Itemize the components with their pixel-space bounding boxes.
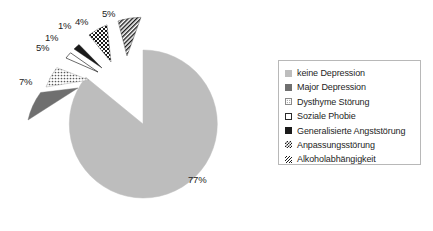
- checkerboard-swatch-icon: [285, 141, 292, 148]
- legend-item-alkoholabhaengigkeit: Alkoholabhängigkeit: [285, 152, 420, 166]
- pie-slice-anpassungsstoerung: [89, 25, 111, 62]
- legend-item-dysthyme-stoerung: Dysthyme Störung: [285, 95, 420, 109]
- pie-chart-area: 77% 7% 5% 1% 1% 4% 5%: [0, 0, 270, 231]
- legend-label: Generalisierte Angststörung: [297, 126, 405, 136]
- legend-label: keine Depression: [297, 68, 365, 78]
- slice-label-anpassungsstoerung: 4%: [75, 16, 88, 27]
- legend-item-generalisierte-angststoerung: Generalisierte Angststörung: [285, 124, 420, 138]
- slice-label-major-depression: 7%: [19, 76, 32, 87]
- pie-slice-generalisierte-angststoerung: [74, 45, 102, 69]
- pie-slice-alkoholabhaengigkeit: [118, 17, 141, 56]
- legend-label: Major Depression: [297, 82, 366, 92]
- diagonal-hatch-swatch-icon: [285, 156, 292, 163]
- legend-item-major-depression: Major Depression: [285, 80, 420, 94]
- legend-item-keine-depression: keine Depression: [285, 66, 420, 80]
- slice-label-soziale-phobie: 1%: [45, 32, 58, 43]
- slice-label-generalisierte-angststoerung: 1%: [58, 20, 71, 31]
- chart-legend: keine Depression Major Depression Dysthy…: [278, 60, 421, 165]
- slice-label-dysthyme-stoerung: 5%: [36, 42, 49, 53]
- legend-label: Anpassungsstörung: [297, 140, 375, 150]
- white-outline-swatch-icon: [285, 113, 292, 120]
- dotted-swatch-icon: [285, 98, 292, 105]
- legend-label: Soziale Phobie: [297, 111, 356, 121]
- pie-chart-graphic: [0, 0, 270, 231]
- pie-slice-soziale-phobie: [66, 53, 98, 72]
- legend-label: Alkoholabhängigkeit: [297, 154, 376, 164]
- solid-light-gray-swatch-icon: [285, 70, 292, 77]
- slice-label-keine-depression: 77%: [188, 174, 206, 185]
- legend-item-soziale-phobie: Soziale Phobie: [285, 109, 420, 123]
- legend-item-anpassungsstoerung: Anpassungsstörung: [285, 138, 420, 152]
- solid-dark-gray-swatch-icon: [285, 84, 292, 91]
- slice-label-alkoholabhaengigkeit: 5%: [102, 8, 115, 19]
- solid-black-swatch-icon: [285, 127, 292, 134]
- legend-label: Dysthyme Störung: [297, 97, 369, 107]
